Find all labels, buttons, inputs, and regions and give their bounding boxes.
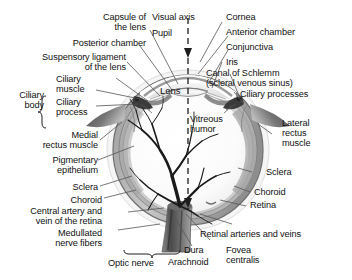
label-arachnoid: Arachnoid — [168, 257, 208, 267]
label-iris: Iris — [226, 57, 238, 67]
label-retinal-arteries-and-veins: Retinal arteries and veins — [200, 229, 301, 239]
label-central-artery-and-vein-of-the-retina: Central artery and vein of the retina — [6, 206, 102, 226]
label-ciliary-muscle: Ciliary muscle — [56, 74, 85, 94]
visual-axis-arrow-top — [184, 48, 192, 58]
label-suspensory-ligament-of-the-lens: Suspensory ligament of the lens — [6, 52, 126, 72]
label-conjunctiva: Conjunctiva — [226, 42, 273, 52]
label-sclera-left: Sclera — [38, 182, 98, 192]
label-lens: Lens — [160, 86, 180, 96]
label-pupil: Pupil — [152, 28, 172, 38]
label-lateral-rectus-muscle: Lateral rectus muscle — [282, 118, 311, 149]
label-medullated-nerve-fibers: Medullated nerve fibers — [26, 228, 102, 248]
label-visual-axis: Visual axis — [152, 12, 195, 22]
label-choroid-right: Choroid — [254, 187, 285, 197]
label-anterior-chamber: Anterior chamber — [226, 27, 295, 37]
label-ciliary-body: Ciliary body — [0, 90, 44, 110]
label-vitreous-humor: Vitreous humor — [190, 114, 223, 134]
label-medial-rectus-muscle: Medial rectus muscle — [2, 130, 98, 150]
label-canal-of-schlemm: Canal of Schlemm (scleral venous sinus) — [206, 68, 293, 88]
label-pigmentary-epithelium: Pigmentary epithelium — [8, 155, 98, 175]
label-sclera-right: Sclera — [266, 167, 291, 177]
label-posterior-chamber: Posterior chamber — [22, 38, 146, 48]
label-choroid-left: Choroid — [44, 195, 102, 205]
label-cornea: Cornea — [226, 12, 256, 22]
label-dura: Dura — [184, 245, 204, 255]
label-retina: Retina — [250, 200, 276, 210]
label-optic-nerve: Optic nerve — [108, 258, 154, 268]
eye-anatomy-figure: Capsule of the lens Visual axis Cornea P… — [0, 0, 352, 280]
label-capsule-of-the-lens: Capsule of the lens — [72, 12, 146, 32]
label-fovea-centralis: Fovea centralis — [226, 245, 259, 265]
label-ciliary-process: Ciliary process — [56, 97, 87, 117]
label-ciliary-processes: Ciliary processes — [240, 89, 308, 99]
